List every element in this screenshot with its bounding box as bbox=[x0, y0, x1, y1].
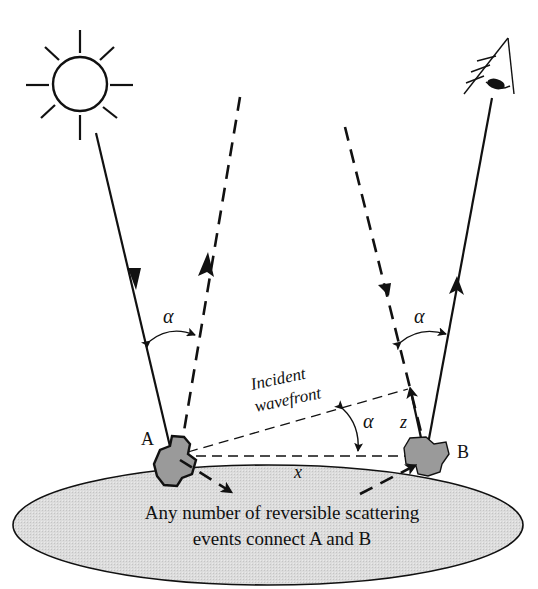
eye-icon bbox=[464, 38, 514, 94]
incident-ray-a bbox=[96, 133, 172, 455]
z-label: z bbox=[399, 412, 407, 432]
alpha-label-left: α bbox=[163, 305, 174, 327]
backscatter-diagram: α α Incident wavefront x α z A B Any num… bbox=[0, 0, 538, 589]
alpha-label-right: α bbox=[414, 305, 425, 327]
alpha-arc-right bbox=[401, 331, 446, 342]
sun-icon bbox=[26, 30, 133, 140]
x-label: x bbox=[293, 462, 302, 482]
scattering-medium bbox=[13, 465, 523, 585]
point-b-label: B bbox=[457, 442, 469, 462]
alpha-arc-left bbox=[150, 331, 195, 341]
emergent-ray-b bbox=[426, 98, 492, 455]
scatterer-b bbox=[404, 437, 449, 476]
medium-text-line1: Any number of reversible scattering bbox=[145, 502, 420, 523]
reversed-ray-a bbox=[180, 97, 240, 455]
arrow-incident-b bbox=[378, 283, 391, 296]
point-a-label: A bbox=[141, 429, 154, 449]
alpha-label-wavefront: α bbox=[363, 410, 374, 432]
alpha-arc-wavefront bbox=[343, 409, 358, 451]
medium-text-line2: events connect A and B bbox=[193, 528, 371, 549]
